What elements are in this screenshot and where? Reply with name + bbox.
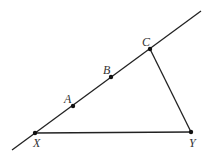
label-x: X [32, 136, 41, 150]
label-b: B [103, 63, 111, 77]
label-y: Y [189, 136, 197, 150]
line-through-x-a-b-c [12, 11, 201, 150]
point-y [189, 130, 193, 134]
segment-xy [35, 132, 191, 133]
point-x [33, 131, 37, 135]
label-a: A [63, 92, 72, 106]
label-c: C [142, 35, 151, 49]
geometry-diagram: X A B C Y [0, 0, 210, 156]
point-a [71, 104, 75, 108]
segment-cy [150, 49, 191, 132]
